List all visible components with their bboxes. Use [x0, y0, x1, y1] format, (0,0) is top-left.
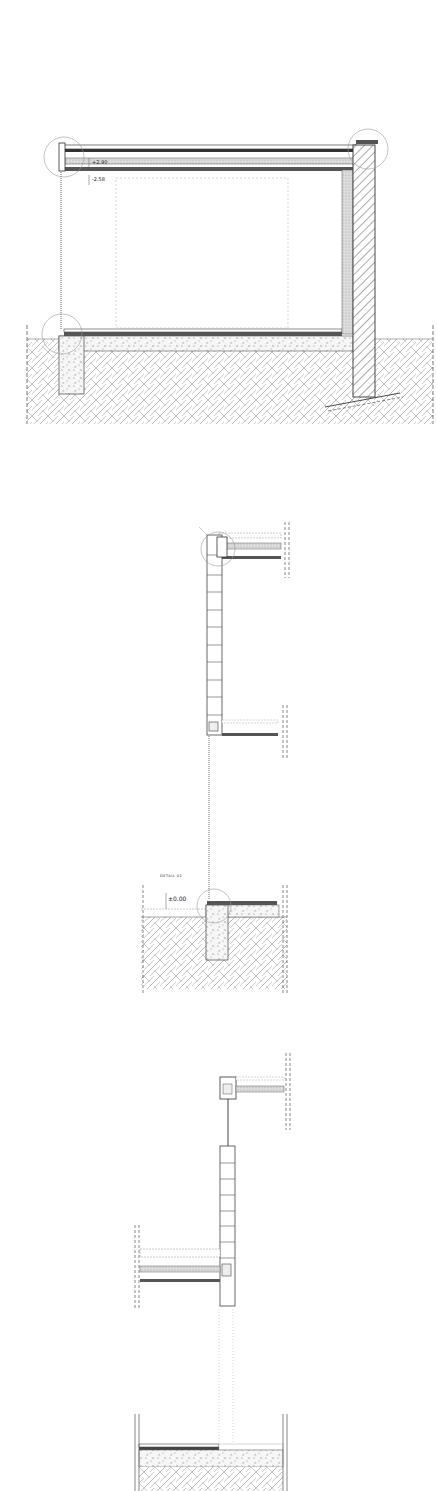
floor-slab	[59, 336, 353, 351]
retaining-wall	[353, 145, 375, 397]
overall-section: +2.90 -2.58	[27, 129, 433, 424]
elevation-ground-label: ±0.00	[168, 895, 187, 902]
interior-outline	[116, 178, 288, 328]
elevation-ceiling-label: -2.58	[92, 176, 105, 182]
detail-wall-section: DETAIL 01 ±0.00	[141, 522, 289, 995]
detail-wall-alt	[135, 1053, 290, 1491]
footing-left	[59, 336, 84, 394]
soil-hatch-bottom	[139, 1467, 283, 1491]
masonry-column	[207, 535, 222, 735]
detail-title: DETAIL 01	[160, 874, 182, 878]
elevation-top-label: +2.90	[92, 159, 107, 165]
roof-slab	[61, 145, 357, 149]
drawing-canvas: +2.90 -2.58	[0, 0, 437, 1491]
